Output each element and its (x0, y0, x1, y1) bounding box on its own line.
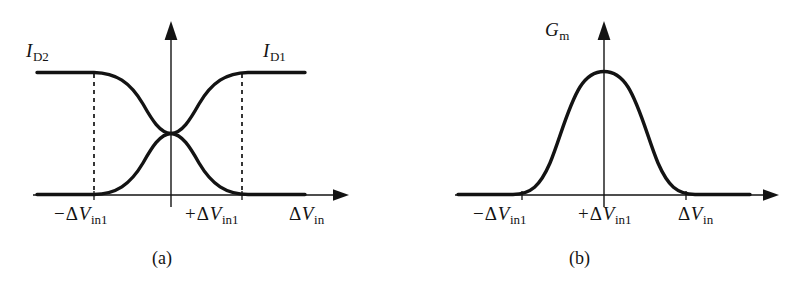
panel-b-plot (400, 0, 799, 289)
voltage-subscript: in1 (615, 212, 632, 227)
figure-root: ID2 ID1 −ΔVin1 +ΔVin1 ΔVin (a) (0, 0, 799, 289)
transconductance-symbol: G (545, 19, 559, 40)
panel-a-caption: (a) (152, 248, 172, 269)
curve-label-id2: ID2 (26, 41, 49, 63)
voltage-symbol: V (302, 203, 314, 224)
voltage-symbol: V (79, 203, 91, 224)
panel-a-x-axis-arrowhead (333, 189, 349, 201)
voltage-symbol: V (498, 203, 510, 224)
panel-a-xtick-label-positive: +ΔVin1 (185, 204, 239, 226)
curve-label-id2-base: I (26, 40, 32, 61)
voltage-subscript: in1 (91, 212, 108, 227)
delta-glyph: Δ (289, 203, 301, 224)
curve-label-id1-sub: D1 (270, 49, 286, 64)
voltage-subscript: in1 (510, 212, 527, 227)
voltage-symbol: V (210, 203, 222, 224)
panel-a-x-axis-label: ΔVin (289, 204, 324, 226)
voltage-subscript: in1 (222, 212, 239, 227)
panel-b-caption: (b) (569, 248, 590, 269)
panel-a-xtick-label-negative: −ΔVin1 (54, 204, 108, 226)
delta-glyph: Δ (197, 203, 209, 224)
panel-b-x-axis-label: ΔVin (678, 204, 713, 226)
panel-b-xtick-label-negative: −ΔVin1 (473, 204, 527, 226)
panel-a-plot (0, 0, 400, 289)
curve-label-id2-sub: D2 (33, 49, 49, 64)
delta-glyph: Δ (485, 203, 497, 224)
voltage-subscript: in (314, 212, 324, 227)
panel-b-xtick-label-positive: +ΔVin1 (578, 204, 632, 226)
delta-glyph: Δ (590, 203, 602, 224)
panel-a: ID2 ID1 −ΔVin1 +ΔVin1 ΔVin (a) (0, 0, 400, 289)
voltage-subscript: in (703, 212, 713, 227)
delta-glyph: Δ (66, 203, 78, 224)
panel-b-y-axis-label: Gm (545, 20, 569, 42)
panel-a-y-axis-arrowhead (165, 21, 178, 40)
curve-label-id1: ID1 (263, 41, 286, 63)
panel-b: Gm −ΔVin1 +ΔVin1 ΔVin (b) (400, 0, 799, 289)
delta-glyph: Δ (678, 203, 690, 224)
plus-sign: + (578, 203, 589, 224)
plus-sign: + (185, 203, 196, 224)
voltage-symbol: V (603, 203, 615, 224)
minus-sign: − (473, 203, 484, 224)
voltage-symbol: V (691, 203, 703, 224)
panel-b-x-axis-arrowhead (763, 189, 779, 201)
panel-b-y-axis-arrowhead (598, 21, 611, 40)
curve-label-id1-base: I (263, 40, 269, 61)
transconductance-subscript: m (559, 28, 569, 43)
minus-sign: − (54, 203, 65, 224)
